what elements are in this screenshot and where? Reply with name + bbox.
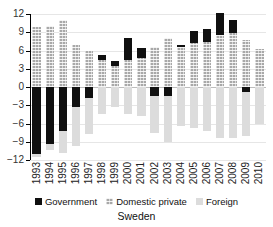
bar-group <box>203 14 211 160</box>
x-tick-label: 2009 <box>241 162 251 184</box>
bar-segment <box>203 42 211 87</box>
bar-segment <box>203 87 211 131</box>
bar-segment <box>164 87 172 96</box>
bar-group <box>242 14 250 160</box>
bar-group <box>177 14 185 160</box>
y-axis-line <box>30 14 31 160</box>
bar-group <box>137 14 145 160</box>
y-tick-mark <box>26 14 30 15</box>
y-tick-label: 6 <box>18 46 24 56</box>
x-tick-label: 2006 <box>202 162 212 184</box>
legend-label: Foreign <box>206 196 238 207</box>
bar-segment <box>111 66 119 87</box>
bar-segment <box>190 87 198 128</box>
bar-segment <box>46 26 54 87</box>
bar-segment <box>177 87 185 126</box>
bar-segment <box>177 45 185 47</box>
bar-segment <box>229 20 237 33</box>
chart-title: Sweden <box>0 210 273 222</box>
bar-segment <box>98 55 106 60</box>
x-tick-label: 2005 <box>189 162 199 184</box>
y-tick-label: −9 <box>13 137 24 147</box>
x-tick-label: 1999 <box>110 162 120 184</box>
square-swatch-black-icon <box>35 198 42 205</box>
bar-segment <box>85 51 93 88</box>
bar-segment <box>72 87 80 107</box>
legend-label: Domestic private <box>116 196 187 207</box>
square-swatch-hatched-icon <box>106 198 113 205</box>
bar-segment <box>59 20 67 87</box>
bar-segment <box>137 58 145 87</box>
bar-group <box>190 14 198 160</box>
x-tick-label: 1995 <box>58 162 68 184</box>
bar-segment <box>190 43 198 87</box>
bar-segment <box>229 87 237 138</box>
chart-legend: GovernmentDomestic privateForeign <box>0 196 273 207</box>
bar-segment <box>229 33 237 87</box>
bar-group <box>72 14 80 160</box>
y-tick-label: 3 <box>18 64 24 74</box>
y-tick-mark <box>26 124 30 125</box>
bar-segment <box>32 27 40 87</box>
bar-segment <box>59 87 67 131</box>
bar-segment <box>72 107 80 146</box>
chart-root: 129630−3−6−9−12 199319941995199619971998… <box>0 0 273 227</box>
legend-item: Foreign <box>196 196 238 207</box>
bar-group <box>255 14 263 160</box>
bar-segment <box>242 40 250 87</box>
bar-segment <box>150 96 158 133</box>
x-tick-label: 2000 <box>123 162 133 184</box>
legend-item: Government <box>35 196 97 207</box>
bar-segment <box>124 38 132 60</box>
bar-group <box>32 14 40 160</box>
x-tick-label: 2004 <box>176 162 186 184</box>
y-tick-label: −6 <box>13 119 24 129</box>
x-tick-label: 2002 <box>150 162 160 184</box>
bar-segment <box>255 49 263 87</box>
bar-group <box>111 14 119 160</box>
y-tick-label: −12 <box>7 155 24 165</box>
y-tick-mark <box>26 142 30 143</box>
bar-segment <box>164 38 172 87</box>
y-tick-label: −3 <box>13 100 24 110</box>
x-tick-label: 1993 <box>32 162 42 184</box>
bar-segment <box>124 60 132 87</box>
bar-segment <box>124 87 132 114</box>
bar-series-layer <box>30 14 266 160</box>
bar-segment <box>46 87 54 144</box>
bar-group <box>124 14 132 160</box>
y-tick-label: 9 <box>18 27 24 37</box>
x-tick-label: 1994 <box>45 162 55 184</box>
bar-segment <box>190 31 198 43</box>
bar-segment <box>216 87 224 138</box>
bar-group <box>150 14 158 160</box>
legend-item: Domestic private <box>106 196 187 207</box>
bar-segment <box>46 144 54 151</box>
bar-segment <box>72 45 80 87</box>
y-tick-label: 12 <box>13 9 24 19</box>
bar-group <box>164 14 172 160</box>
bar-segment <box>203 29 211 42</box>
bar-segment <box>98 60 106 87</box>
bar-group <box>216 14 224 160</box>
x-tick-label: 2010 <box>254 162 264 184</box>
y-tick-mark <box>26 32 30 33</box>
x-tick-label: 2007 <box>215 162 225 184</box>
y-tick-label: 0 <box>18 82 24 92</box>
bar-segment <box>177 47 185 87</box>
x-tick-label: 2008 <box>228 162 238 184</box>
bar-segment <box>164 96 172 143</box>
bar-segment <box>111 87 119 107</box>
bar-segment <box>98 87 106 114</box>
x-tick-label: 2001 <box>136 162 146 184</box>
bar-segment <box>150 47 158 87</box>
bar-group <box>46 14 54 160</box>
bar-segment <box>111 61 119 66</box>
bar-segment <box>85 98 93 134</box>
bar-segment <box>255 87 263 124</box>
bar-segment <box>32 87 40 154</box>
bar-group <box>85 14 93 160</box>
bar-group <box>59 14 67 160</box>
gridline <box>30 160 266 161</box>
x-tick-label: 1998 <box>97 162 107 184</box>
